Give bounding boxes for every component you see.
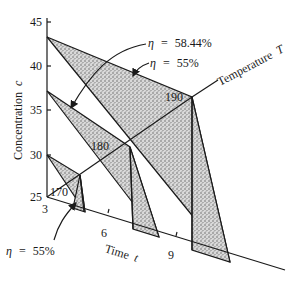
svg-text:Time t: Time t: [103, 241, 140, 265]
temperature-label-text: Temperature: [215, 48, 275, 89]
time-tick-label-6: 6: [101, 226, 107, 240]
time-label-text: Time: [103, 241, 131, 262]
temperature-label-170: 170: [50, 185, 68, 199]
concentration-label-text: Concentration: [11, 92, 25, 160]
eta-55-bottom-annotation: η = 55%: [6, 244, 55, 258]
temperature-axis-label: Temperature T: [215, 41, 287, 88]
time-tick-6: [108, 209, 109, 213]
time-axis-label: Time t: [103, 241, 140, 265]
tick-label-45: 45: [30, 15, 42, 29]
eta-55-bottom-arrow: [54, 203, 76, 240]
tick-label-25: 25: [30, 190, 42, 204]
time-axis: [47, 197, 285, 270]
time-tick-label-9: 9: [168, 248, 174, 262]
temperature-label-190: 190: [165, 90, 183, 104]
concentration-symbol: c: [11, 80, 25, 86]
tick-label-35: 35: [30, 103, 42, 117]
time-symbol: t: [133, 251, 141, 266]
temperature-symbol: T: [274, 41, 288, 57]
diagram-canvas: 45 40 35 30 25 Concentration c 3 6 9 Tim…: [0, 0, 291, 286]
time-tick-9: [176, 232, 177, 236]
time-tick-label-3: 3: [42, 202, 48, 216]
concentration-axis-label: Concentration c: [11, 80, 25, 160]
eta-55-top-annotation: η = 55%: [150, 56, 199, 70]
temperature-axis-ext: [192, 80, 218, 97]
tick-label-30: 30: [30, 148, 42, 162]
svg-text:Concentration c: Concentration c: [11, 80, 25, 160]
tick-label-40: 40: [30, 59, 42, 73]
svg-text:Temperature T: Temperature T: [215, 41, 287, 88]
region-190-lower: [192, 97, 230, 262]
eta-58-annotation: η = 58.44%: [148, 36, 212, 50]
temperature-label-180: 180: [91, 139, 109, 153]
